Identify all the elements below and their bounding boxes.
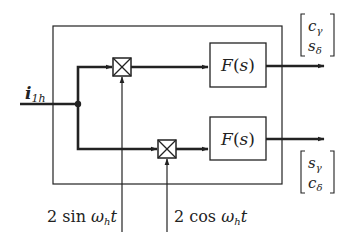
output-vector-top: cγ sδ	[301, 14, 334, 56]
multiplier-sin	[113, 58, 131, 76]
output-top-row2: sδ	[308, 37, 322, 56]
cos-reference-label: 2 cos ωht	[174, 207, 248, 227]
filter-bottom-label: F(s)	[220, 129, 255, 149]
filter-top-label: F(s)	[220, 55, 255, 75]
multiplier-cos	[158, 140, 176, 158]
sin-reference-label: 2 sin ωht	[47, 207, 117, 227]
branch-bottom	[78, 104, 157, 149]
block-diagram: F(s) F(s) i1h cγ sδ sγ cδ 2 sin ωht 2 co…	[0, 0, 359, 245]
output-vector-bottom: sγ cδ	[301, 151, 334, 193]
output-bottom-row1: sγ	[308, 154, 322, 173]
input-label: i1h	[25, 83, 46, 105]
output-top-row1: cγ	[308, 17, 322, 36]
output-bottom-row2: cδ	[308, 174, 322, 193]
branch-top	[78, 67, 112, 104]
